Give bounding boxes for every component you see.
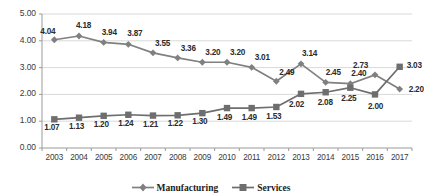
legend-label-services: Services [257, 183, 290, 193]
data-point-marker [199, 110, 205, 116]
data-point-marker [100, 113, 106, 119]
data-point-marker [125, 41, 132, 48]
legend-item-services[interactable]: Services [232, 182, 290, 193]
x-axis-tick-label: 2005 [91, 153, 116, 162]
data-label: 1.20 [94, 120, 109, 129]
data-label: 3.14 [302, 49, 317, 58]
y-axis-tick-label: 1.00 [2, 115, 36, 125]
data-label: 1.30 [192, 117, 207, 126]
data-point-marker [372, 71, 379, 78]
data-label: 3.36 [181, 44, 196, 53]
data-point-marker [76, 115, 82, 121]
data-label: 4.04 [40, 27, 55, 36]
x-axis-tick-label: 2003 [42, 153, 67, 162]
data-label: 4.18 [76, 21, 91, 30]
data-point-marker [273, 104, 279, 110]
x-axis-tick-label: 2008 [165, 153, 190, 162]
data-label: 2.73 [353, 61, 368, 70]
data-label: 3.87 [127, 29, 142, 38]
legend-item-manufacturing[interactable]: Manufacturing [132, 182, 219, 193]
chart-legend: Manufacturing Services [0, 182, 422, 193]
x-axis-tick-label: 2014 [313, 153, 338, 162]
y-axis-tick-label: 5.00 [2, 8, 36, 18]
y-axis-tick-label: 0.00 [2, 142, 36, 152]
x-axis-tick-label: 2011 [239, 153, 264, 162]
data-point-marker [100, 39, 107, 46]
data-point-marker [248, 105, 254, 111]
x-axis-tick-label: 2004 [67, 153, 92, 162]
data-point-marker [174, 55, 181, 62]
legend-label-manufacturing: Manufacturing [157, 183, 219, 193]
data-point-marker [199, 59, 206, 66]
legend-marker-diamond-icon [132, 182, 154, 193]
data-label: 1.24 [118, 119, 133, 128]
x-axis-tick-label: 2017 [387, 153, 412, 162]
data-point-marker [224, 59, 231, 66]
x-axis-tick-label: 2012 [264, 153, 289, 162]
data-point-marker [150, 49, 157, 56]
data-point-marker [125, 112, 131, 118]
data-label: 2.20 [409, 85, 424, 94]
data-label: 1.13 [69, 122, 84, 131]
data-label: 3.03 [407, 61, 422, 70]
data-label: 2.25 [341, 94, 356, 103]
data-label: 2.40 [351, 69, 366, 78]
data-point-marker [347, 85, 353, 91]
data-point-marker [396, 64, 402, 70]
x-axis-tick-label: 2007 [141, 153, 166, 162]
y-axis-tick-label: 3.00 [2, 62, 36, 72]
x-axis-tick-label: 2015 [338, 153, 363, 162]
series-markers [51, 33, 403, 123]
legend-marker-square-icon [232, 182, 254, 193]
data-label: 1.07 [44, 123, 59, 132]
data-label: 2.02 [289, 100, 304, 109]
data-label: 2.00 [368, 102, 383, 111]
data-label: 3.55 [155, 39, 170, 48]
data-point-marker [248, 64, 255, 71]
data-point-marker [51, 116, 57, 122]
data-label: 3.20 [230, 48, 245, 57]
x-axis-tick-label: 2013 [289, 153, 314, 162]
data-point-marker [322, 89, 328, 95]
data-point-marker [396, 86, 403, 93]
data-label: 1.49 [217, 113, 232, 122]
data-label: 3.01 [255, 53, 270, 62]
data-point-marker [224, 105, 230, 111]
y-axis-tick-label: 4.00 [2, 35, 36, 45]
data-point-marker [298, 91, 304, 97]
data-label: 2.08 [318, 98, 333, 107]
x-axis-tick-label: 2006 [116, 153, 141, 162]
data-label: 3.94 [102, 28, 117, 37]
data-label: 3.20 [205, 48, 220, 57]
data-point-marker [174, 112, 180, 118]
data-label: 1.22 [168, 119, 183, 128]
data-label: 1.53 [266, 112, 281, 121]
data-point-marker [51, 36, 58, 43]
x-axis-tick-label: 2009 [190, 153, 215, 162]
data-point-marker [76, 33, 83, 40]
data-label: 1.49 [242, 113, 257, 122]
data-label: 1.21 [143, 120, 158, 129]
data-label: 2.45 [326, 68, 341, 77]
x-axis-tick-label: 2010 [215, 153, 240, 162]
data-label: 2.49 [279, 68, 294, 77]
y-axis-tick-label: 2.00 [2, 88, 36, 98]
x-axis-tick-label: 2016 [363, 153, 388, 162]
data-point-marker [372, 91, 378, 97]
data-point-marker [150, 112, 156, 118]
